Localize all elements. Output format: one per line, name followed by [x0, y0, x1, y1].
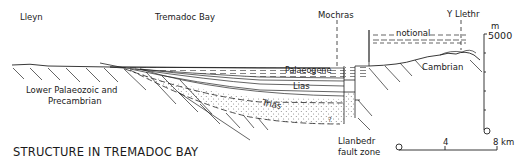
- uncertain-marker: ?: [328, 117, 332, 124]
- vertical-scale-top: 5000: [488, 31, 512, 41]
- location-y-llethr: Y Llethr: [447, 10, 479, 19]
- unit-lias: Lias: [293, 82, 310, 91]
- fault-label-line2: fault zone: [338, 148, 380, 157]
- unit-basement-line1: Lower Palaeozoic and: [26, 86, 118, 95]
- location-tremadoc-bay: Tremadoc Bay: [155, 13, 215, 22]
- horizontal-scale-end: 8 km: [493, 138, 514, 147]
- unit-notional: notional: [396, 29, 430, 38]
- horizontal-scale-mid: 4: [443, 138, 448, 147]
- location-lleyn: Lleyn: [20, 13, 43, 22]
- unit-basement-line2: Precambrian: [48, 97, 102, 106]
- vertical-scale-bar: [484, 34, 490, 134]
- unit-cambrian: Cambrian: [422, 63, 463, 72]
- diagram-title: STRUCTURE IN TREMADOC BAY: [13, 145, 198, 159]
- cross-section-drawing: [0, 0, 520, 165]
- unit-palaeogene: Palaeogene: [285, 67, 331, 75]
- location-mochras: Mochras: [318, 11, 354, 20]
- fault-label-line1: Llanbedr: [338, 137, 375, 146]
- cambrian-hatching: [358, 60, 482, 130]
